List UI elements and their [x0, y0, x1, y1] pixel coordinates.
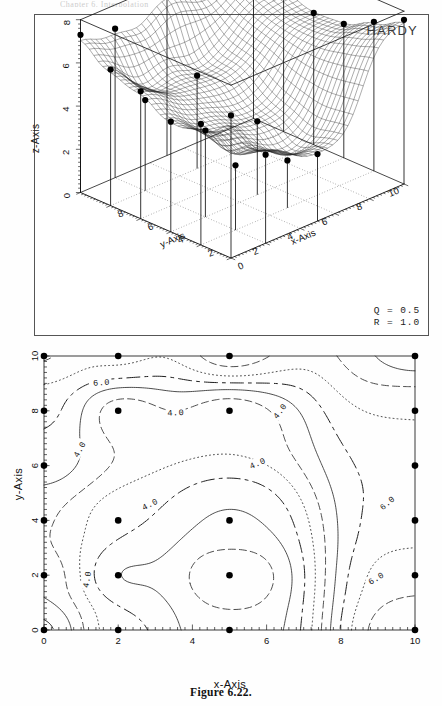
parameter-r: R = 1.0	[374, 317, 420, 329]
svg-text:4: 4	[61, 106, 72, 111]
svg-text:8: 8	[338, 635, 343, 646]
svg-text:8: 8	[29, 408, 40, 413]
figure-page: Chapter 6. Interpolation HARDY Q = 0.5 R…	[0, 0, 442, 706]
parameter-r-name: R	[374, 317, 381, 328]
parameter-q-eq: =	[387, 305, 394, 316]
svg-text:0: 0	[61, 193, 72, 198]
svg-text:0: 0	[236, 260, 245, 272]
surface-plot-canvas: 0246802468246810y-Axisx-Axis	[35, 15, 430, 337]
svg-text:6: 6	[61, 63, 72, 68]
svg-text:10: 10	[29, 351, 40, 362]
svg-text:8: 8	[116, 207, 125, 219]
svg-text:6: 6	[264, 635, 269, 646]
parameter-r-value: 1.0	[400, 317, 420, 328]
method-label: HARDY	[366, 23, 418, 38]
parameter-q-name: Q	[374, 305, 381, 316]
svg-text:2: 2	[29, 573, 40, 578]
svg-text:2: 2	[61, 150, 72, 155]
svg-text:0: 0	[41, 635, 46, 646]
svg-text:6: 6	[29, 463, 40, 468]
svg-text:4: 4	[29, 518, 40, 523]
svg-text:4.0: 4.0	[167, 408, 184, 419]
svg-text:6: 6	[146, 220, 155, 232]
svg-text:10: 10	[410, 635, 421, 646]
svg-text:2: 2	[206, 247, 215, 259]
contour-plot-panel: y-Axis 024681002468106.04.04.04.04.04.04…	[30, 348, 430, 660]
svg-text:4: 4	[190, 635, 195, 646]
svg-text:0: 0	[29, 627, 40, 632]
svg-text:6.0: 6.0	[93, 378, 110, 389]
contour-y-axis-title: y-Axis	[12, 468, 24, 500]
parameter-r-eq: =	[387, 317, 394, 328]
parameter-q: Q = 0.5	[374, 305, 420, 317]
surface-plot-panel: HARDY Q = 0.5 R = 1.0 z-Axis 02468024682…	[34, 14, 429, 336]
parameter-q-value: 0.5	[400, 305, 420, 316]
contour-plot-canvas: 024681002468106.04.04.04.04.04.04.06.06.…	[30, 348, 430, 660]
z-axis-title: z-Axis	[30, 124, 41, 154]
parameter-box: Q = 0.5 R = 1.0	[374, 305, 420, 329]
svg-text:4.0: 4.0	[81, 570, 94, 588]
figure-caption: Figure 6.22.	[0, 686, 442, 698]
svg-text:2: 2	[116, 635, 121, 646]
svg-text:8: 8	[61, 20, 72, 25]
cropped-header-remnant: Chapter 6. Interpolation	[60, 0, 320, 7]
